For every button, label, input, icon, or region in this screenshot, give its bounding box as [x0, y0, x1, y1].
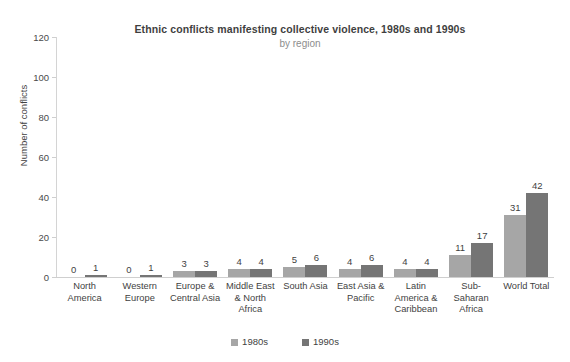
bar-fill	[173, 271, 195, 277]
bar[interactable]: 3	[195, 271, 217, 277]
bar[interactable]: 4	[228, 269, 250, 277]
bar-value-label: 17	[471, 230, 493, 241]
bar-value-label: 1	[140, 262, 162, 273]
bar-fill	[471, 243, 493, 277]
bar-value-label: 6	[361, 252, 383, 263]
x-axis-label: South Asia	[278, 281, 333, 316]
bar-fill	[394, 269, 416, 277]
bar-value-label: 4	[250, 256, 272, 267]
bar-group: 33	[167, 37, 222, 277]
bar[interactable]: 31	[504, 215, 526, 277]
y-axis-tick-mark	[52, 237, 56, 238]
y-axis-tick-mark	[52, 157, 56, 158]
bar-fill	[228, 269, 250, 277]
bar-fill	[361, 265, 383, 277]
bar-fill	[250, 269, 272, 277]
bar-fill	[283, 267, 305, 277]
y-axis-tick-label: 0	[44, 272, 49, 283]
y-axis-tick-label: 20	[38, 232, 49, 243]
bar[interactable]: 11	[449, 255, 471, 277]
bar-group: 3142	[499, 37, 554, 277]
x-axis-label: World Total	[499, 281, 554, 316]
x-axis-line	[56, 277, 554, 278]
legend-item[interactable]: 1980s	[231, 337, 268, 347]
bar-fill	[416, 269, 438, 277]
y-axis-tick-label: 80	[38, 112, 49, 123]
bar-chart: Ethnic conflicts manifesting collective …	[0, 0, 570, 362]
bar[interactable]: 42	[526, 193, 548, 277]
bar[interactable]: 3	[173, 271, 195, 277]
bar-group: 56	[278, 37, 333, 277]
y-axis-tick-mark	[52, 197, 56, 198]
x-axis-label: East Asia & Pacific	[333, 281, 388, 316]
bar-groups: 0101334456464411173142	[57, 37, 554, 277]
x-axis-label: Middle East & North Africa	[223, 281, 278, 316]
bar-fill	[85, 275, 107, 277]
bar-fill	[526, 193, 548, 277]
bar[interactable]: 4	[339, 269, 361, 277]
bar-value-label: 6	[305, 252, 327, 263]
y-axis-tick-label: 40	[38, 192, 49, 203]
bar-group: 1117	[444, 37, 499, 277]
bar-value-label: 3	[173, 258, 195, 269]
legend-swatch-icon	[302, 339, 309, 346]
y-axis-tick-mark	[52, 277, 56, 278]
y-axis-tick-mark	[52, 37, 56, 38]
bar-value-label: 5	[283, 254, 305, 265]
bar-group: 44	[223, 37, 278, 277]
bar-group: 01	[112, 37, 167, 277]
bar[interactable]: 1	[85, 275, 107, 277]
y-axis-tick-mark	[52, 117, 56, 118]
bar-value-label: 42	[526, 180, 548, 191]
x-axis-labels: North AmericaWestern EuropeEurope & Cent…	[57, 281, 554, 316]
bar-value-label: 4	[339, 256, 361, 267]
bar-value-label: 0	[63, 264, 85, 275]
x-axis-label: North America	[57, 281, 112, 316]
y-axis-tick-mark	[52, 77, 56, 78]
bar-value-label: 11	[449, 242, 471, 253]
x-axis-label: Western Europe	[112, 281, 167, 316]
bar[interactable]: 4	[416, 269, 438, 277]
bar-fill	[449, 255, 471, 277]
bar-fill	[140, 275, 162, 277]
y-axis-title: Number of conflicts	[18, 66, 29, 186]
chart-title: Ethnic conflicts manifesting collective …	[60, 22, 540, 36]
bar[interactable]: 6	[361, 265, 383, 277]
legend-label: 1990s	[313, 337, 339, 347]
bar[interactable]: 5	[283, 267, 305, 277]
bar[interactable]: 4	[394, 269, 416, 277]
legend-item[interactable]: 1990s	[302, 337, 339, 347]
bar-fill	[504, 215, 526, 277]
bar[interactable]: 0	[63, 277, 85, 278]
chart-legend: 1980s1990s	[0, 337, 570, 347]
y-axis-tick-label: 120	[33, 32, 49, 43]
x-axis-label: Europe & Central Asia	[167, 281, 222, 316]
x-axis-label: Sub-Saharan Africa	[444, 281, 499, 316]
bar[interactable]: 0	[118, 277, 140, 278]
bar-value-label: 4	[394, 256, 416, 267]
bar-value-label: 0	[118, 264, 140, 275]
legend-label: 1980s	[242, 337, 268, 347]
legend-swatch-icon	[231, 339, 238, 346]
bar[interactable]: 6	[305, 265, 327, 277]
bar[interactable]: 17	[471, 243, 493, 277]
y-axis-tick-label: 100	[33, 72, 49, 83]
bar-fill	[339, 269, 361, 277]
bar-group: 01	[57, 37, 112, 277]
bar-value-label: 4	[416, 256, 438, 267]
bar-fill	[195, 271, 217, 277]
y-axis-tick-label: 60	[38, 152, 49, 163]
bar-group: 44	[388, 37, 443, 277]
x-axis-label: Latin America & Caribbean	[388, 281, 443, 316]
plot-area: 020406080100120 0101334456464411173142	[56, 37, 554, 277]
bar-group: 46	[333, 37, 388, 277]
bar-value-label: 1	[85, 262, 107, 273]
bar-value-label: 4	[228, 256, 250, 267]
bar-value-label: 3	[195, 258, 217, 269]
bar[interactable]: 1	[140, 275, 162, 277]
bar-fill	[305, 265, 327, 277]
bar-value-label: 31	[504, 202, 526, 213]
bar[interactable]: 4	[250, 269, 272, 277]
